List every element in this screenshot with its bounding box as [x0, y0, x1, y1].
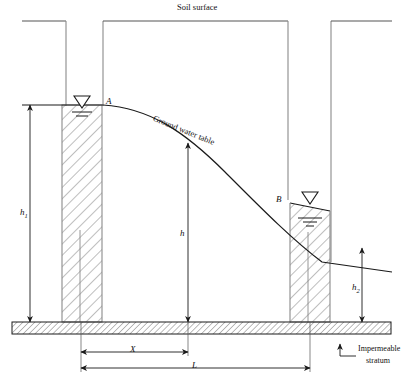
h2-label-sub: 2 — [357, 287, 360, 294]
h-label: h — [180, 229, 185, 238]
right-well-column — [290, 193, 330, 322]
impermeable-stratum-label-line1: Impermeable — [358, 345, 400, 353]
h2-label: h2 — [352, 283, 360, 294]
h1-label: h1 — [20, 208, 28, 219]
dimension-l-label: L — [192, 361, 197, 370]
diagram-canvas — [0, 0, 403, 383]
impermeable-stratum-label-line2: stratum — [366, 357, 390, 365]
dimension-x-label: X — [130, 345, 136, 354]
point-a-label: A — [106, 97, 112, 106]
impermeable-stratum-band — [12, 322, 391, 334]
impermeable-stratum-leader — [340, 344, 356, 356]
point-b-label: B — [276, 195, 282, 204]
h1-label-sub: 1 — [25, 212, 28, 219]
left-well-column — [62, 105, 102, 322]
soil-surface-label: Soil surface — [177, 3, 217, 12]
groundwater-well-diagram: Soil surface Ground water table A B h1 h… — [0, 0, 403, 383]
